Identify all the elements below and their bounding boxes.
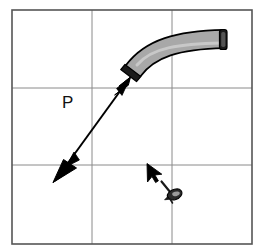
diagram-figure: P [0,0,258,251]
vector-p-label: P [62,93,73,112]
tube-end-cap-far-bore [221,32,225,47]
tube-end-cap-far [220,30,228,50]
diagram-canvas: P [0,0,258,251]
